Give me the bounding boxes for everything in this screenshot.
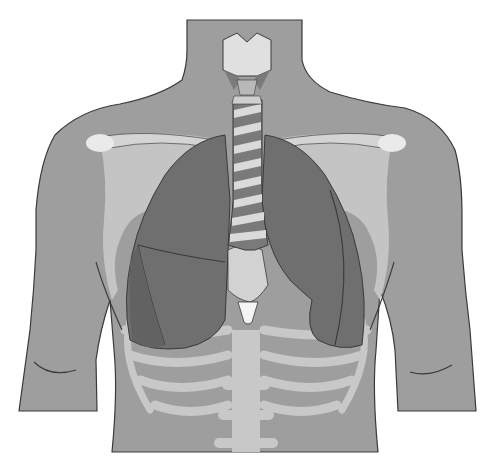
trachea xyxy=(228,100,268,250)
thorax-illustration xyxy=(0,0,492,469)
